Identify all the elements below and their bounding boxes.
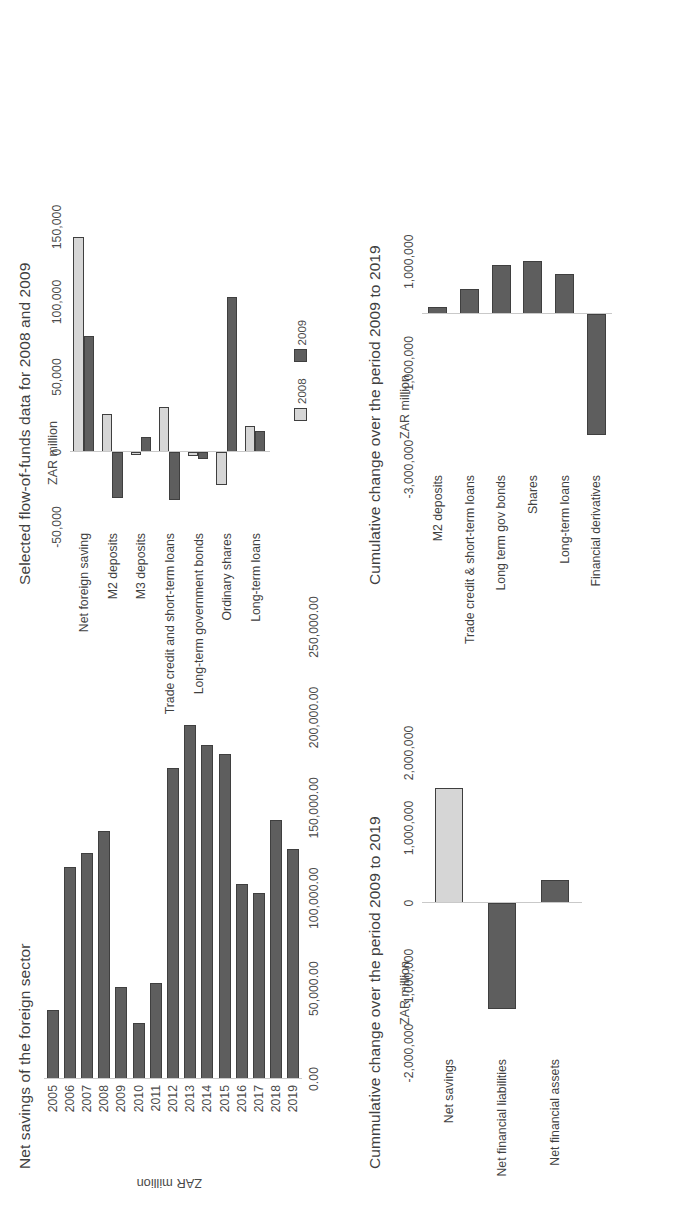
plot-area [422,241,612,469]
bar-Financial derivatives [587,314,606,435]
category-label: 2011 [149,1085,163,1111]
category-label: Trade credit and short-term loans [163,533,177,714]
value-tick-label: -1,000,000 [402,336,416,395]
bar-2009-Trade credit and short-term loans [169,452,179,500]
chart-title: Selected flow-of-funds data for 2008 and… [16,263,34,585]
bar-2010 [133,1023,145,1079]
value-tick-label: -2,000,000 [402,1024,416,1083]
value-tick-label: 50,000 [50,358,64,396]
chart-title: Cummulative change over the period 2009 … [366,816,384,1169]
x-tick-label: 100,000.00 [307,867,321,929]
bar-2008-Trade credit and short-term loans [159,407,169,452]
bar-2008-Net foreign saving [73,238,83,453]
bar-2009-Ordinary shares [227,298,237,453]
chart-title: Cumulative change over the period 2009 t… [366,245,384,585]
bar-2018 [270,820,282,1079]
value-tick-label: 2,000,000 [402,726,416,781]
category-label: 2014 [200,1085,214,1112]
plot-area [70,227,270,527]
value-axis-line [44,1078,302,1079]
category-label: Net foreign saving [77,533,91,632]
value-tick-label: 1,000,000 [402,234,416,289]
bar-Net financial assets [541,881,569,904]
category-label: Long-term government bonds [192,533,206,694]
category-label: Ordinary shares [220,533,234,620]
category-label: Long term gov bonds [494,475,508,591]
bar-Long-term loans [555,274,574,313]
category-label: M2 deposits [106,533,120,599]
value-tick-label: 100,000 [50,280,64,324]
bar-Net financial liabilities [488,903,516,1009]
bar-2009-Long-term government bonds [198,452,208,460]
bar-2009-M3 deposits [141,437,151,452]
document-sheet: Net savings of the foreign sector ZAR mi… [0,0,686,1219]
category-label: Financial derivatives [589,475,603,586]
bar-2012 [167,768,179,1079]
bar-2017 [253,893,265,1079]
y-axis-label: ZAR million [137,1176,202,1191]
category-label: 2010 [132,1085,146,1112]
category-label: 2007 [80,1085,94,1112]
legend: 20082009 [292,304,310,421]
bar-2009-M2 deposits [112,452,122,499]
chart-selected-flow-of-funds: Selected flow-of-funds data for 2008 and… [16,29,346,589]
category-label: M3 deposits [134,533,148,599]
category-label: 2018 [269,1085,283,1112]
category-label: 2015 [218,1085,232,1112]
bar-2009-Net foreign saving [84,337,94,453]
bar-Net savings [435,788,463,903]
chart-cummulative-change-balances: Cummulative change over the period 2009 … [366,615,666,1175]
value-tick-label: 0 [402,900,416,907]
value-tick-label: -3,000,000 [402,440,416,499]
bar-Long term gov bonds [492,265,511,313]
category-label: 2019 [286,1085,300,1112]
bar-2008-M3 deposits [131,452,141,455]
category-label: Net financial liabilities [495,1059,509,1177]
legend-swatch-2008 [294,408,307,421]
bar-2019 [287,849,299,1079]
category-label: Long-term loans [249,533,263,622]
plot-area [422,753,582,1053]
chart-cumulative-change-instruments: Cumulative change over the period 2009 t… [366,29,666,589]
bar-2016 [236,884,248,1079]
category-label: 2009 [114,1085,128,1112]
category-label: 2017 [252,1085,266,1112]
bar-2008-Ordinary shares [216,452,226,485]
value-tick-label: 0 [50,449,64,456]
bar-2006 [64,867,76,1079]
chart-net-savings-foreign-sector: Net savings of the foreign sector ZAR mi… [16,615,346,1175]
legend-entry-label: 2008 [296,378,308,404]
zero-axis-line [422,902,582,903]
category-label: 2016 [235,1085,249,1112]
category-label: Long-term loans [558,475,572,564]
zero-axis-line [70,451,270,452]
category-label: 2013 [183,1085,197,1112]
bar-Trade credit & short-term loans [460,289,479,313]
category-label: M2 deposits [431,475,445,541]
legend-entry-label: 2009 [296,320,308,346]
x-tick-label: 200,000.00 [307,687,321,749]
bar-Shares [523,261,542,314]
category-label: 2006 [63,1085,77,1112]
bar-2008-M2 deposits [102,415,112,453]
bar-2009-Long-term loans [255,431,265,452]
category-label: Trade credit & short-term loans [463,475,477,644]
zero-axis-line [422,313,612,314]
value-tick-label: -50,000 [50,506,64,548]
bar-2008-Long-term loans [245,427,255,453]
value-tick-label: -1,000,000 [402,949,416,1008]
bar-2008-Long-term government bonds [188,452,198,457]
category-label: 2008 [97,1085,111,1112]
category-label: Net savings [442,1059,456,1123]
bar-2005 [47,1010,59,1079]
bar-2008 [98,831,110,1079]
category-label: 2005 [46,1085,60,1112]
bar-2013 [184,725,196,1079]
bar-2009 [115,987,127,1079]
bar-2015 [219,754,231,1079]
value-tick-label: 150,000 [50,205,64,249]
bar-2007 [81,853,93,1079]
legend-swatch-2009 [294,349,307,362]
value-tick-label: 1,000,000 [402,801,416,856]
category-label: Net financial assets [548,1059,562,1166]
